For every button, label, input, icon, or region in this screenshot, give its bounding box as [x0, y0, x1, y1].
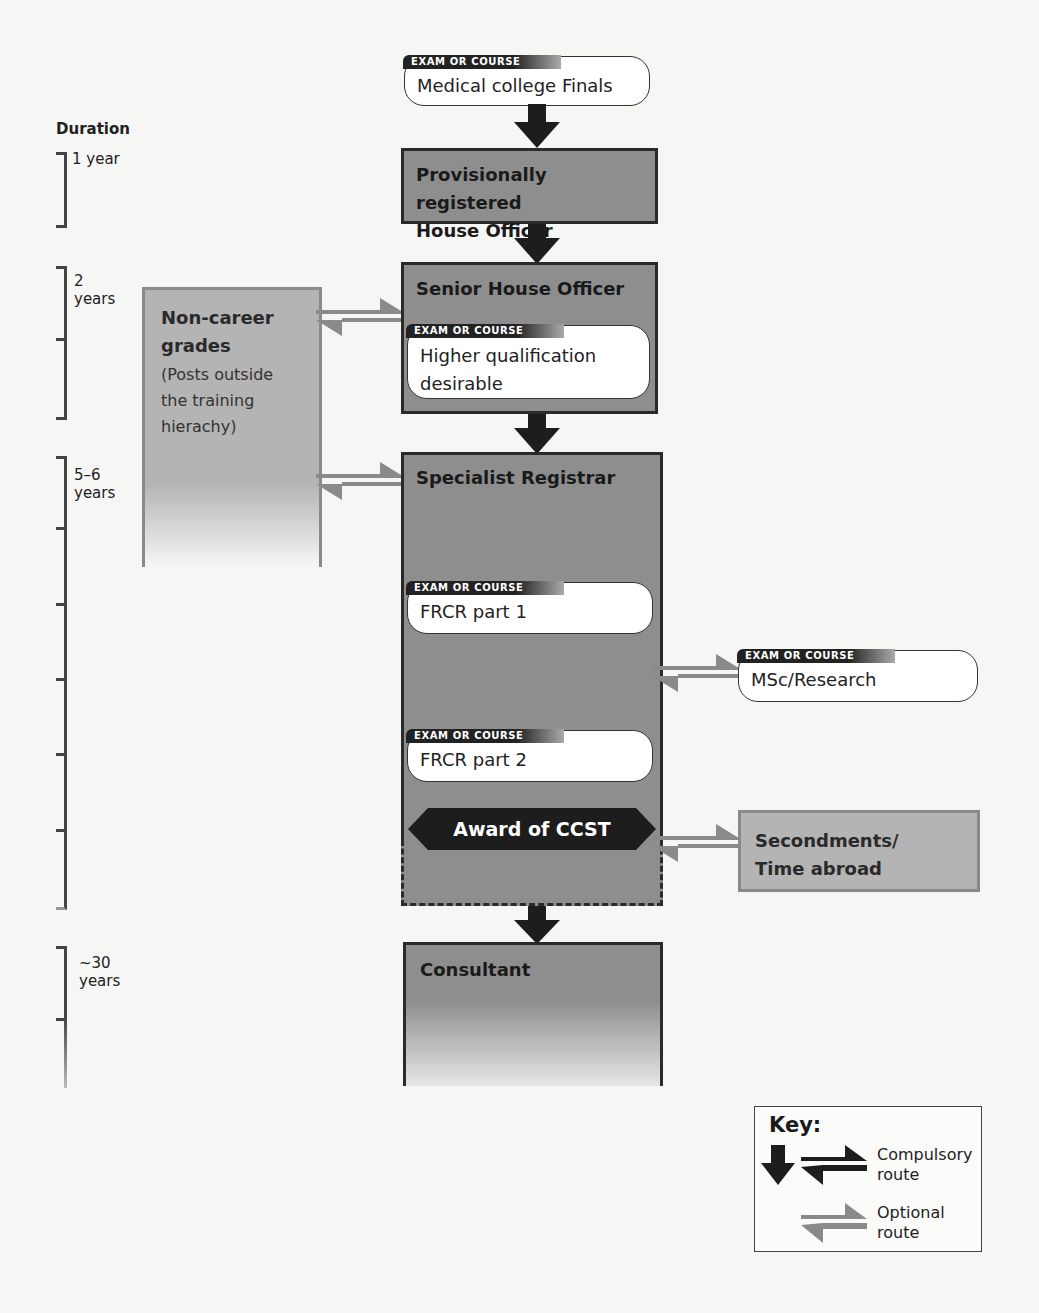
exam-medical-finals: EXAM OR COURSE Medical college Finals: [404, 56, 650, 106]
compulsory-down-arrow-icon: [761, 1145, 797, 1185]
exam-tag: EXAM OR COURSE: [406, 324, 564, 338]
optional-route-arrow: [316, 460, 408, 502]
grade-sho-title: Senior House Officer: [416, 275, 624, 303]
grade-consultant-title: Consultant: [420, 959, 530, 980]
duration-label-2-value: 2: [74, 272, 115, 290]
key-optional-line2: route: [877, 1223, 945, 1243]
exam-frcr-part2: EXAM OR COURSE FRCR part 2: [407, 730, 653, 782]
exam-tag: EXAM OR COURSE: [403, 55, 561, 69]
duration-label-3-unit: years: [74, 484, 115, 502]
secondments-line2: Time abroad: [755, 855, 899, 883]
compulsory-down-arrow: [512, 906, 562, 944]
exam-tag: EXAM OR COURSE: [406, 581, 564, 595]
duration-bracket-1: [56, 152, 67, 228]
duration-tick: [56, 678, 64, 681]
non-career-grades-box: Non-career grades (Posts outside the tra…: [142, 287, 322, 567]
compulsory-down-arrow: [512, 414, 562, 454]
duration-tick: [56, 338, 64, 341]
non-career-line1: Non-career: [161, 304, 274, 332]
secondments-box: Secondments/ Time abroad: [738, 810, 980, 892]
ccst-award-label: Award of CCST: [408, 808, 656, 850]
exam-higher-qualification-label: Higher qualification desirable: [420, 342, 596, 398]
duration-label-3-value: 5–6: [74, 466, 115, 484]
duration-tick: [56, 753, 64, 756]
non-career-sub2: the training: [161, 388, 273, 414]
key-compulsory-line1: Compulsory: [877, 1145, 972, 1165]
duration-label-3: 5–6 years: [74, 466, 115, 502]
exam-msc-research-label: MSc/Research: [751, 667, 876, 693]
optional-route-arrow: [652, 652, 744, 694]
duration-label-4: ~30 years: [79, 954, 120, 990]
exam-higher-qualification-line2: desirable: [420, 370, 596, 398]
duration-label-2-unit: years: [74, 290, 115, 308]
duration-tick: [56, 527, 64, 530]
optional-route-icon: [801, 1203, 867, 1245]
key-optional-label: Optional route: [877, 1203, 945, 1243]
optional-route-arrow: [316, 296, 408, 338]
key-title: Key:: [769, 1113, 821, 1137]
grade-consultant: Consultant: [403, 942, 663, 1086]
exam-higher-qualification-line1: Higher qualification: [420, 342, 596, 370]
non-career-grades-title: Non-career grades: [161, 304, 274, 360]
exam-frcr-part1-label: FRCR part 1: [420, 599, 527, 625]
duration-title: Duration: [56, 120, 130, 138]
exam-tag: EXAM OR COURSE: [406, 729, 564, 743]
grade-spr-title: Specialist Registrar: [416, 467, 615, 488]
secondments-line1: Secondments/: [755, 827, 899, 855]
duration-tick: [56, 829, 64, 832]
duration-label-2: 2 years: [74, 272, 115, 308]
duration-bracket-2: [56, 266, 67, 420]
duration-bracket-4: [64, 946, 67, 1088]
key-optional-line1: Optional: [877, 1203, 945, 1223]
exam-tag: EXAM OR COURSE: [737, 649, 895, 663]
exam-msc-research: EXAM OR COURSE MSc/Research: [738, 650, 978, 702]
optional-route-arrow: [652, 822, 744, 864]
compulsory-route-icon: [801, 1145, 867, 1187]
key-compulsory-line2: route: [877, 1165, 972, 1185]
exam-frcr-part1: EXAM OR COURSE FRCR part 1: [407, 582, 653, 634]
non-career-sub1: (Posts outside: [161, 362, 273, 388]
compulsory-down-arrow: [512, 104, 562, 148]
duration-label-4-value: ~30: [79, 954, 120, 972]
exam-higher-qualification: EXAM OR COURSE Higher qualification desi…: [407, 325, 650, 399]
exam-frcr-part2-label: FRCR part 2: [420, 747, 527, 773]
duration-bracket-4-top: [56, 946, 64, 949]
non-career-line2: grades: [161, 332, 274, 360]
key-legend: Key: Compulsory route Optional route: [754, 1106, 982, 1252]
key-compulsory-label: Compulsory route: [877, 1145, 972, 1185]
duration-label-1: 1 year: [72, 150, 120, 168]
duration-tick: [56, 603, 64, 606]
compulsory-down-arrow: [512, 224, 562, 264]
grade-house-officer: Provisionally registered House Officer: [401, 148, 658, 224]
duration-label-4-unit: years: [79, 972, 120, 990]
duration-bracket-3: [56, 456, 67, 910]
secondments-label: Secondments/ Time abroad: [755, 827, 899, 883]
duration-tick: [56, 1018, 64, 1021]
grade-house-officer-line1: Provisionally registered: [416, 161, 655, 217]
exam-medical-finals-label: Medical college Finals: [417, 73, 613, 99]
non-career-sub3: hierachy): [161, 414, 273, 440]
non-career-grades-subtitle: (Posts outside the training hierachy): [161, 362, 273, 440]
